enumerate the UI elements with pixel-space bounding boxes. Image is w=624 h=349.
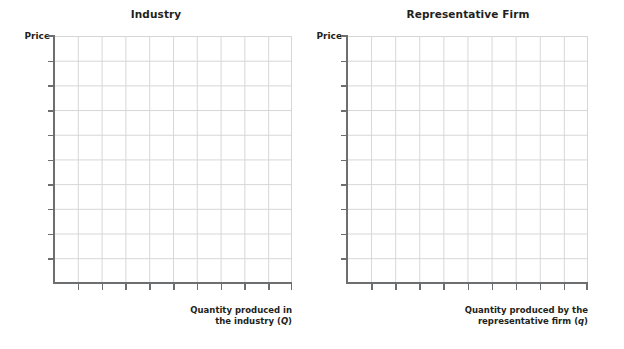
y-axis-label-industry: Price bbox=[8, 31, 50, 41]
y-tick-representative-firm bbox=[341, 184, 347, 186]
x-tick-industry bbox=[125, 284, 127, 290]
x-tick-representative-firm bbox=[540, 284, 542, 290]
y-tick-industry bbox=[48, 209, 54, 211]
x-tick-industry bbox=[149, 284, 151, 290]
x-axis-caption-line1: Quantity produced by the bbox=[465, 305, 588, 315]
x-tick-industry bbox=[268, 284, 270, 290]
y-tick-representative-firm bbox=[341, 209, 347, 211]
y-tick-representative-firm bbox=[341, 160, 347, 162]
y-tick-industry bbox=[48, 258, 54, 260]
y-tick-representative-firm bbox=[341, 61, 347, 63]
y-tick-industry bbox=[48, 110, 54, 112]
x-tick-industry bbox=[78, 284, 80, 290]
x-tick-industry bbox=[291, 284, 293, 290]
x-tick-industry bbox=[173, 284, 175, 290]
x-tick-representative-firm bbox=[468, 284, 470, 290]
y-tick-industry bbox=[48, 135, 54, 137]
x-axis-caption-line2-prefix: the industry ( bbox=[215, 316, 281, 326]
x-tick-representative-firm bbox=[443, 284, 445, 290]
x-axis-caption-industry: Quantity produced in the industry (Q) bbox=[92, 305, 292, 327]
x-tick-representative-firm bbox=[395, 284, 397, 290]
figure-canvas: Industry Price bbox=[0, 0, 624, 349]
x-tick-representative-firm bbox=[419, 284, 421, 290]
chart-panel-representative-firm: Representative Firm Price bbox=[312, 0, 624, 349]
y-tick-industry bbox=[48, 85, 54, 87]
y-tick-representative-firm bbox=[341, 258, 347, 260]
x-tick-industry bbox=[102, 284, 104, 290]
x-tick-industry bbox=[244, 284, 246, 290]
grid-industry bbox=[54, 36, 292, 283]
x-axis-caption-representative-firm: Quantity produced by the representative … bbox=[388, 305, 588, 327]
grid-representative-firm bbox=[347, 36, 588, 283]
x-tick-industry bbox=[197, 284, 199, 290]
x-axis-caption-line2-suffix: ) bbox=[584, 316, 588, 326]
y-tick-industry bbox=[48, 35, 54, 37]
x-tick-representative-firm bbox=[492, 284, 494, 290]
plot-area-representative-firm bbox=[347, 36, 588, 283]
y-tick-representative-firm bbox=[341, 85, 347, 87]
chart-title-industry: Industry bbox=[0, 8, 312, 20]
plot-area-industry bbox=[54, 36, 292, 283]
y-tick-industry bbox=[48, 184, 54, 186]
x-axis-caption-line2-prefix: representative firm ( bbox=[478, 316, 578, 326]
y-axis-label-representative-firm: Price bbox=[312, 31, 342, 41]
y-tick-industry bbox=[48, 234, 54, 236]
x-tick-representative-firm bbox=[371, 284, 373, 290]
x-axis-caption-line2-suffix: ) bbox=[288, 316, 292, 326]
x-tick-industry bbox=[221, 284, 223, 290]
y-tick-representative-firm bbox=[341, 135, 347, 137]
chart-title-representative-firm: Representative Firm bbox=[312, 8, 624, 20]
x-tick-representative-firm bbox=[516, 284, 518, 290]
x-tick-representative-firm bbox=[586, 284, 588, 290]
y-tick-industry bbox=[48, 160, 54, 162]
x-axis-caption-line1: Quantity produced in bbox=[190, 305, 292, 315]
y-tick-industry bbox=[48, 61, 54, 63]
y-tick-representative-firm bbox=[341, 110, 347, 112]
x-tick-representative-firm bbox=[564, 284, 566, 290]
y-tick-representative-firm bbox=[341, 35, 347, 37]
y-tick-representative-firm bbox=[341, 234, 347, 236]
chart-panel-industry: Industry Price bbox=[0, 0, 312, 349]
